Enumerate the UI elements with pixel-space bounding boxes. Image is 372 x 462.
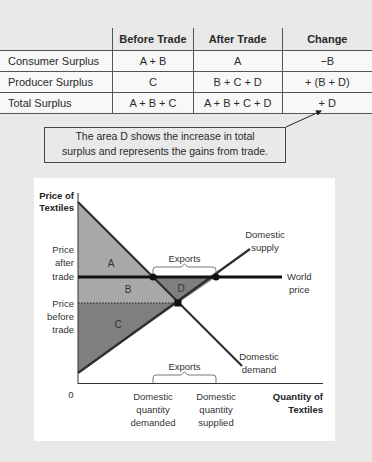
area-d-label: D xyxy=(177,283,184,294)
qty-supplied-label-line-1: Domestic xyxy=(196,391,236,402)
origin-label: 0 xyxy=(68,389,73,400)
y-axis-label-line-2: Textiles xyxy=(39,202,74,213)
world-price-label-line-1: World xyxy=(287,271,312,282)
demand-label-line-2: demand xyxy=(242,364,276,375)
y-axis-label-line-1: Price of xyxy=(39,190,75,201)
demand-at-world-price-dot xyxy=(150,274,157,281)
qty-demanded-label-line-1: Domestic xyxy=(133,391,173,402)
trade-graph: A B C D Price of Textiles Price after tr… xyxy=(0,0,372,462)
area-a-label: A xyxy=(108,258,115,269)
supply-label-line-1: Domestic xyxy=(245,229,285,240)
exports-brace-bottom xyxy=(153,372,216,383)
price-before-label-line-1: Price xyxy=(52,298,74,309)
price-after-label-line-3: trade xyxy=(52,271,74,282)
exports-label-bottom: Exports xyxy=(168,361,200,372)
x-axis-label-line-1: Quantity of xyxy=(273,391,324,402)
demand-label-line-1: Domestic xyxy=(239,351,279,362)
price-before-label-line-3: trade xyxy=(52,324,74,335)
qty-supplied-label-line-3: supplied xyxy=(198,417,233,428)
exports-label-top: Exports xyxy=(168,253,200,264)
qty-demanded-label-line-2: quantity xyxy=(136,404,170,415)
equilibrium-point xyxy=(175,300,182,307)
supply-at-world-price-dot xyxy=(213,274,220,281)
world-price-label-line-2: price xyxy=(289,284,310,295)
supply-label-line-2: supply xyxy=(251,242,279,253)
price-after-label-line-2: after xyxy=(55,257,74,268)
x-axis-label-line-2: Textiles xyxy=(288,404,323,415)
price-after-label-line-1: Price xyxy=(52,244,74,255)
exports-brace-top xyxy=(153,264,216,273)
area-b-label: B xyxy=(125,284,132,295)
qty-demanded-label-line-3: demanded xyxy=(131,417,176,428)
qty-supplied-label-line-2: quantity xyxy=(199,404,233,415)
price-before-label-line-2: before xyxy=(47,311,74,322)
area-c-label: C xyxy=(114,319,121,330)
